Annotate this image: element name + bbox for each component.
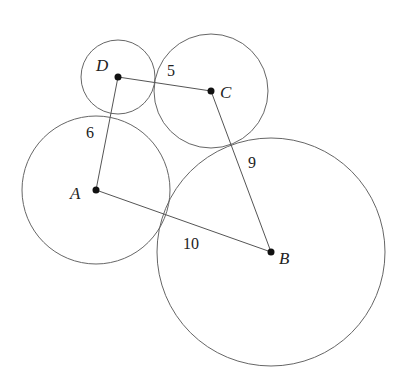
segment-cb (211, 91, 271, 252)
label-c: C (220, 83, 232, 102)
length-ab: 10 (183, 235, 199, 252)
label-b: B (279, 249, 290, 268)
tangent-circles-diagram: A B C D 5 6 9 10 (0, 0, 400, 387)
segment-da (96, 77, 118, 190)
point-a (93, 187, 100, 194)
length-da: 6 (86, 124, 94, 141)
segment-dc (118, 77, 211, 91)
label-a: A (69, 184, 81, 203)
point-d (115, 74, 122, 81)
point-b (268, 249, 275, 256)
label-d: D (95, 56, 109, 75)
point-c (208, 88, 215, 95)
length-cb: 9 (248, 154, 256, 171)
length-dc: 5 (167, 62, 175, 79)
